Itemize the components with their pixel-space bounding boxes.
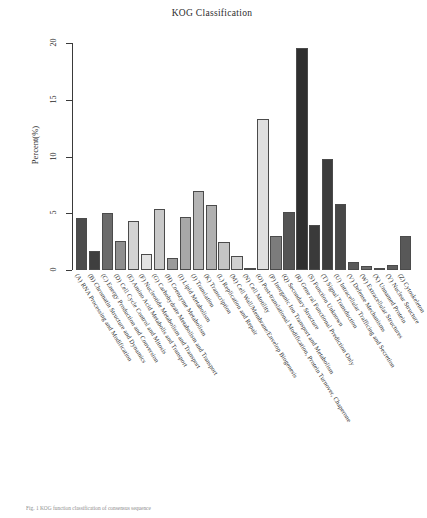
x-axis-labels: (A) RNA Processing and Modification(B) C…: [0, 272, 424, 502]
bar: [128, 221, 139, 270]
bar: [270, 236, 281, 270]
bar: [89, 251, 100, 270]
bar: [309, 225, 320, 270]
bar: [348, 262, 359, 270]
figure-caption: Fig. 1 KOG function classification of co…: [26, 505, 406, 515]
y-tick-label: 15: [49, 90, 58, 108]
y-tick-mark: [66, 43, 72, 44]
bar: [335, 204, 346, 270]
y-tick-label: 10: [49, 147, 58, 165]
plot-area: Percent(%) 05101520: [0, 0, 424, 300]
bar: [218, 242, 229, 270]
bar-series: [76, 43, 416, 270]
y-tick-mark: [66, 270, 72, 271]
bar: [231, 256, 242, 270]
y-tick-label: 5: [49, 204, 58, 222]
y-axis-title: Percent(%): [30, 105, 40, 185]
y-tick-label: 20: [49, 34, 58, 52]
bar: [206, 205, 217, 270]
bar: [154, 209, 165, 270]
bar: [102, 213, 113, 270]
bar: [374, 268, 385, 270]
bar: [167, 258, 178, 270]
bar: [387, 265, 398, 270]
y-tick-mark: [66, 213, 72, 214]
bar: [361, 266, 372, 270]
y-tick-mark: [66, 100, 72, 101]
bar: [76, 218, 87, 270]
y-axis-line: [72, 43, 73, 270]
bar: [180, 217, 191, 270]
bar: [115, 241, 126, 271]
bar: [283, 212, 294, 270]
bar: [141, 254, 152, 270]
y-tick-mark: [66, 157, 72, 158]
bar: [244, 268, 255, 270]
bar: [400, 236, 411, 270]
bar: [257, 119, 268, 270]
bar: [193, 191, 204, 270]
bar: [296, 48, 307, 270]
bar: [322, 159, 333, 270]
